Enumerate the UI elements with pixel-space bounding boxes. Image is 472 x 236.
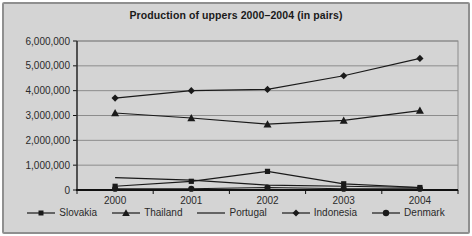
- series-denmark-marker: [417, 186, 423, 192]
- legend-label: Portugal: [229, 207, 266, 218]
- series-denmark-marker: [188, 186, 194, 192]
- y-axis-label: 2,000,000: [26, 135, 71, 146]
- legend-item-portugal: Portugal: [197, 207, 266, 218]
- series-thailand-marker: [416, 107, 424, 114]
- series-slovakia-marker: [265, 169, 270, 174]
- series-indonesia-marker: [340, 72, 347, 79]
- legend-item-indonesia: Indonesia: [282, 207, 357, 218]
- square-icon: [27, 208, 55, 218]
- series-indonesia-marker: [188, 87, 195, 94]
- y-axis-label: 3,000,000: [26, 110, 71, 121]
- series-indonesia-marker: [416, 55, 423, 62]
- legend-item-thailand: Thailand: [112, 207, 182, 218]
- x-axis-label: 2003: [333, 195, 356, 206]
- series-denmark-marker: [264, 184, 270, 190]
- x-axis-label: 2000: [104, 195, 127, 206]
- x-axis-label: 2004: [409, 195, 432, 206]
- line-icon: [197, 208, 225, 218]
- legend-label: Thailand: [144, 207, 182, 218]
- legend-item-denmark: Denmark: [372, 207, 445, 218]
- y-axis-label: 0: [64, 185, 70, 196]
- series-denmark-marker: [341, 186, 347, 192]
- y-axis-label: 1,000,000: [26, 160, 71, 171]
- legend-label: Slovakia: [59, 207, 97, 218]
- y-axis-label: 5,000,000: [26, 60, 71, 71]
- y-axis-label: 6,000,000: [26, 36, 71, 47]
- circle-icon: [372, 208, 400, 218]
- legend-label: Indonesia: [314, 207, 357, 218]
- triangle-icon: [112, 208, 140, 218]
- y-axis-label: 4,000,000: [26, 85, 71, 96]
- x-axis-label: 2002: [256, 195, 279, 206]
- x-axis-label: 2001: [180, 195, 203, 206]
- diamond-icon: [282, 208, 310, 218]
- series-indonesia-marker: [264, 86, 271, 93]
- legend-item-slovakia: Slovakia: [27, 207, 97, 218]
- series-denmark-marker: [112, 186, 118, 192]
- plot-area: 01,000,0002,000,0003,000,0004,000,0005,0…: [0, 0, 472, 236]
- legend: SlovakiaThailandPortugalIndonesiaDenmark: [0, 207, 472, 218]
- legend-label: Denmark: [404, 207, 445, 218]
- series-indonesia-marker: [112, 95, 119, 102]
- series-slovakia-marker: [341, 181, 346, 186]
